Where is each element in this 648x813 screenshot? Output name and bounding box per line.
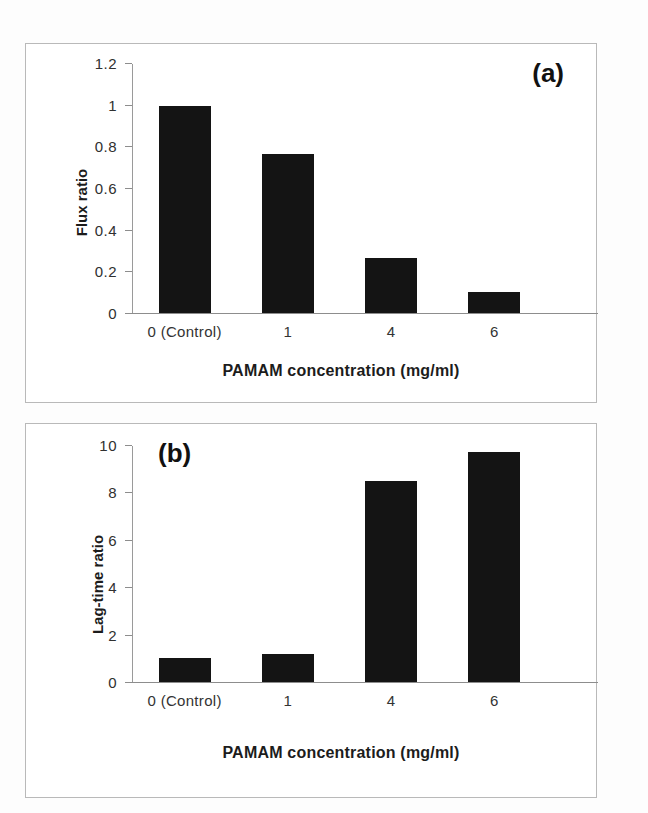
bar	[159, 106, 211, 314]
y-tick-b: 6	[125, 540, 132, 541]
y-tick-a: 0.8	[125, 146, 132, 147]
y-tick-label-b: 8	[108, 484, 117, 501]
bar-slot	[443, 446, 546, 682]
y-tick-b: 10	[125, 445, 132, 446]
x-axis-title-b: PAMAM concentration (mg/ml)	[26, 744, 596, 762]
y-tick-a: 0.2	[125, 271, 132, 272]
y-tick-label-b: 2	[108, 626, 117, 643]
x-category-label: 0 (Control)	[133, 683, 236, 709]
bar-slot	[236, 64, 339, 313]
chart-panel-a: (a) Flux ratio 00.20.40.60.811.2 0 (Cont…	[25, 43, 597, 403]
y-tick-b: 8	[125, 492, 132, 493]
y-tick-label-a: 0.8	[95, 138, 117, 155]
chart-panel-b: (b) Lag-time ratio 0246810 0 (Control)14…	[25, 423, 597, 798]
bar-group-b	[133, 446, 546, 682]
y-tick-label-b: 4	[108, 579, 117, 596]
bar-slot	[443, 64, 546, 313]
y-tick-label-a: 1	[108, 96, 117, 113]
bar	[262, 154, 314, 313]
y-axis-title-b: Lag-time ratio	[89, 510, 106, 660]
y-tick-label-a: 0.6	[95, 180, 117, 197]
bar	[262, 654, 314, 682]
bar-group-a	[133, 64, 546, 313]
y-tick-label-a: 0	[108, 305, 117, 322]
bar	[159, 658, 211, 682]
x-category-label: 6	[443, 683, 546, 709]
bar-slot	[133, 64, 236, 313]
y-tick-label-b: 0	[108, 674, 117, 691]
figure-canvas: (a) Flux ratio 00.20.40.60.811.2 0 (Cont…	[0, 0, 648, 813]
y-tick-label-a: 0.4	[95, 221, 117, 238]
x-category-label: 4	[340, 314, 443, 340]
y-tick-b: 0	[125, 682, 132, 683]
x-category-label: 0 (Control)	[133, 314, 236, 340]
x-category-label: 6	[443, 314, 546, 340]
y-tick-b: 4	[125, 587, 132, 588]
y-tick-a: 0.6	[125, 188, 132, 189]
x-category-label: 1	[236, 314, 339, 340]
x-category-group-b: 0 (Control)146	[133, 683, 546, 709]
y-tick-label-b: 6	[108, 531, 117, 548]
bar	[365, 258, 417, 313]
x-axis-title-a: PAMAM concentration (mg/ml)	[26, 362, 596, 380]
y-tick-a: 0.4	[125, 230, 132, 231]
y-tick-a: 1	[125, 105, 132, 106]
y-axis-title-a: Flux ratio	[73, 143, 90, 263]
bar-slot	[133, 446, 236, 682]
x-category-label: 4	[340, 683, 443, 709]
x-category-label: 1	[236, 683, 339, 709]
bar	[468, 292, 520, 313]
plot-area-b: 0246810 0 (Control)146	[132, 446, 546, 683]
plot-area-a: 00.20.40.60.811.2 0 (Control)146	[132, 64, 546, 314]
bar-slot	[340, 446, 443, 682]
x-category-group-a: 0 (Control)146	[133, 314, 546, 340]
y-tick-b: 2	[125, 635, 132, 636]
y-tick-label-a: 0.2	[95, 263, 117, 280]
bar	[468, 452, 520, 682]
y-tick-a: 1.2	[125, 63, 132, 64]
y-tick-label-a: 1.2	[95, 55, 117, 72]
bar	[365, 481, 417, 682]
bar-slot	[340, 64, 443, 313]
y-tick-a: 0	[125, 313, 132, 314]
bar-slot	[236, 446, 339, 682]
y-tick-label-b: 10	[99, 437, 117, 454]
